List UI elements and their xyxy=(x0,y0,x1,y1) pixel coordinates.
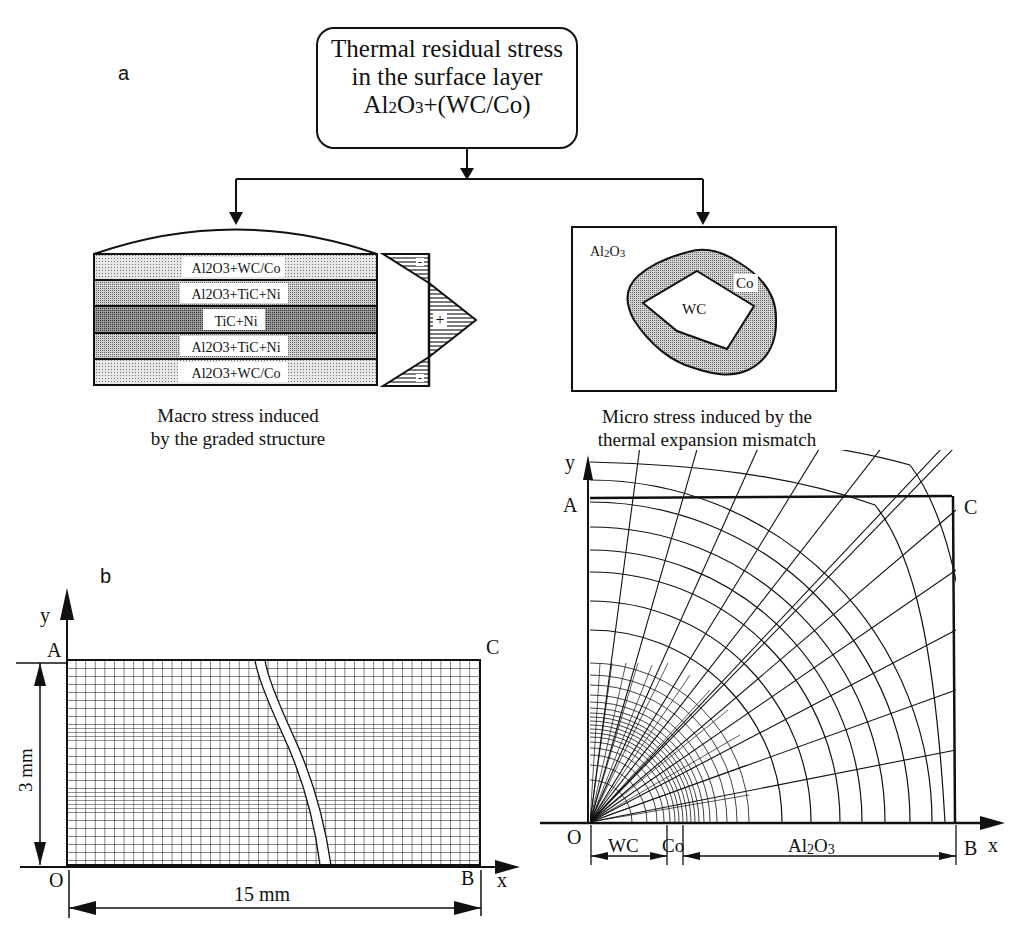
layer-3-label: TiC+Ni xyxy=(214,314,257,329)
layer-2-label: Al2O3+TiC+Ni xyxy=(191,287,280,302)
corner-A: A xyxy=(47,639,62,661)
width-dimension: 15 mm xyxy=(234,883,291,905)
axis-y-label: y xyxy=(40,604,50,627)
particle-label: WC xyxy=(682,301,706,317)
corner-O: O xyxy=(567,826,581,848)
micro-caption: Micro stress induced by the thermal expa… xyxy=(576,405,838,451)
layer-5-label: Al2O3+WC/Co xyxy=(192,366,281,381)
axis-y-label: y xyxy=(565,451,575,474)
layer-1-label: Al2O3+WC/Co xyxy=(192,261,281,276)
corner-B: B xyxy=(461,867,474,889)
panel-c-mesh: WC Co Al2O3 y A C O B x xyxy=(540,450,1030,940)
svg-text:+: + xyxy=(435,311,444,328)
layer-4-label: Al2O3+TiC+Ni xyxy=(191,340,280,355)
height-dimension: 3 mm xyxy=(15,748,36,792)
svg-text:-: - xyxy=(418,371,422,385)
dim-co: Co xyxy=(662,835,684,856)
axis-x-label: x xyxy=(988,834,998,856)
dim-wc: WC xyxy=(608,835,639,856)
binder-label: Co xyxy=(736,275,754,291)
svg-text:-: - xyxy=(418,255,422,269)
panel-b-mesh: 3 mm 15 mm y A C O B x xyxy=(0,580,550,940)
corner-C: C xyxy=(964,496,977,518)
corner-O: O xyxy=(49,869,63,891)
macro-caption: Macro stress induced by the graded struc… xyxy=(118,404,358,450)
matrix-label: Al2O3 xyxy=(590,244,626,259)
stress-profile: - + - xyxy=(383,254,476,386)
corner-A: A xyxy=(563,494,578,516)
axis-x-label: x xyxy=(497,869,507,891)
corner-C: C xyxy=(486,636,499,658)
corner-B: B xyxy=(964,837,977,859)
panel-a-diagram: Al2O3+WC/Co Al2O3+TiC+Ni TiC+Ni Al2O3+Ti… xyxy=(0,0,1030,470)
